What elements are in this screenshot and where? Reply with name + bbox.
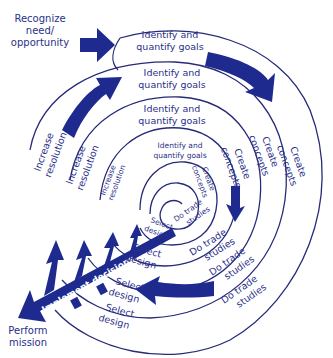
band-tooth-2 [96, 283, 108, 296]
svg-text:quantify goals: quantify goals [138, 79, 205, 90]
left-upper-arrow-icon [62, 77, 122, 138]
bottom-arrow-icon [135, 276, 214, 305]
trade-labels: Do trade studies Do trade studies Do tra… [172, 196, 268, 315]
svg-text:mission: mission [9, 337, 47, 348]
entry-arrow-icon [80, 28, 115, 62]
svg-text:quantify goals: quantify goals [153, 151, 206, 160]
svg-text:Identify and: Identify and [142, 29, 199, 40]
concepts-labels: Create concepts Create concepts Create c… [190, 129, 311, 199]
top-arrow-icon [205, 52, 275, 102]
svg-text:need/: need/ [26, 25, 55, 36]
svg-text:quantify goals: quantify goals [136, 41, 203, 52]
resolution-labels: Increase resolution Increase resolution … [31, 126, 128, 201]
svg-text:Identify and: Identify and [144, 67, 201, 78]
concepts-arrow-icon [226, 186, 245, 222]
implement-decisions-band: Implement decisions [18, 224, 176, 322]
svg-text:quantify goals: quantify goals [138, 115, 205, 126]
goals-labels: Identify and quantify goals Identify and… [136, 29, 206, 160]
spiral-diagram: Implement decisions Recognize need/ oppo… [0, 0, 333, 358]
svg-text:opportunity: opportunity [11, 37, 69, 48]
svg-text:Perform: Perform [8, 325, 47, 336]
ring-outer-start [113, 38, 120, 70]
exit-label: Perform mission [8, 325, 47, 348]
entry-label: Recognize need/ opportunity [11, 13, 69, 48]
svg-text:Identify and: Identify and [144, 103, 201, 114]
svg-text:Recognize: Recognize [14, 13, 65, 24]
svg-text:Identify and: Identify and [158, 141, 203, 150]
